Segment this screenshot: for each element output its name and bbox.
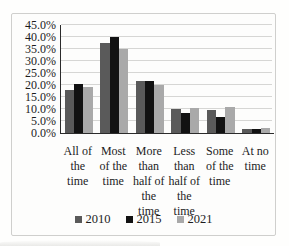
bar-2021-cat3 — [190, 108, 199, 133]
bar-2015-cat2 — [145, 81, 154, 133]
bar-group-1 — [97, 25, 133, 133]
bar-group-2 — [132, 25, 168, 133]
bar-2015-cat3 — [181, 113, 190, 133]
bar-2010-cat2 — [136, 81, 145, 133]
legend-swatch-2015 — [126, 216, 133, 223]
bar-2021-cat0 — [83, 87, 92, 133]
bar-group-5 — [239, 25, 275, 133]
legend-label-2021: 2021 — [188, 212, 213, 226]
y-tick-label-0.0%: 0.0% — [12, 126, 56, 140]
y-tick-label-45.0%: 45.0% — [12, 18, 56, 32]
bar-2015-cat4 — [216, 117, 225, 133]
x-tick-label-5: At no time — [236, 144, 276, 174]
y-tick-label-20.0%: 20.0% — [12, 78, 56, 92]
x-tick-label-2: More than half of the time — [129, 144, 169, 219]
y-tick-label-10.0%: 10.0% — [12, 102, 56, 116]
legend-item-2015: 2015 — [126, 212, 162, 226]
bar-group-3 — [168, 25, 204, 133]
x-tick-label-3: Less than half of the time — [165, 144, 205, 219]
bar-2021-cat4 — [225, 107, 234, 133]
legend-label-2015: 2015 — [137, 212, 162, 226]
x-tick-label-1: Most of the time — [94, 144, 134, 189]
bar-group-0 — [61, 25, 97, 133]
bar-2010-cat0 — [65, 90, 74, 133]
bar-2015-cat0 — [74, 84, 83, 133]
y-tick-label-5.0%: 5.0% — [12, 114, 56, 128]
bar-2021-cat5 — [261, 128, 270, 133]
bar-2010-cat4 — [207, 110, 216, 133]
x-tick-label-4: Some of the time — [200, 144, 240, 189]
bar-2015-cat5 — [252, 129, 261, 133]
bar-2010-cat5 — [242, 129, 251, 133]
y-tick-label-15.0%: 15.0% — [12, 90, 56, 104]
bar-2021-cat1 — [119, 49, 128, 133]
chart-frame: 0.0%5.0%10.0%15.0%20.0%25.0%30.0%35.0%40… — [11, 13, 276, 236]
bar-2021-cat2 — [154, 85, 163, 133]
legend-item-2010: 2010 — [75, 212, 111, 226]
legend-label-2010: 2010 — [86, 212, 111, 226]
scan-artifact — [0, 240, 160, 246]
legend-swatch-2021 — [177, 216, 184, 223]
x-tick-label-0: All of the time — [58, 144, 98, 189]
bar-2015-cat1 — [110, 37, 119, 133]
plot-area — [60, 25, 274, 134]
bar-2010-cat3 — [171, 109, 180, 133]
legend: 201020152021 — [12, 212, 275, 226]
legend-swatch-2010 — [75, 216, 82, 223]
y-tick-label-40.0%: 40.0% — [12, 30, 56, 44]
bar-2010-cat1 — [100, 43, 109, 133]
y-tick-label-30.0%: 30.0% — [12, 54, 56, 68]
y-tick-label-25.0%: 25.0% — [12, 66, 56, 80]
y-tick-label-35.0%: 35.0% — [12, 42, 56, 56]
legend-item-2021: 2021 — [177, 212, 213, 226]
bar-group-4 — [203, 25, 239, 133]
